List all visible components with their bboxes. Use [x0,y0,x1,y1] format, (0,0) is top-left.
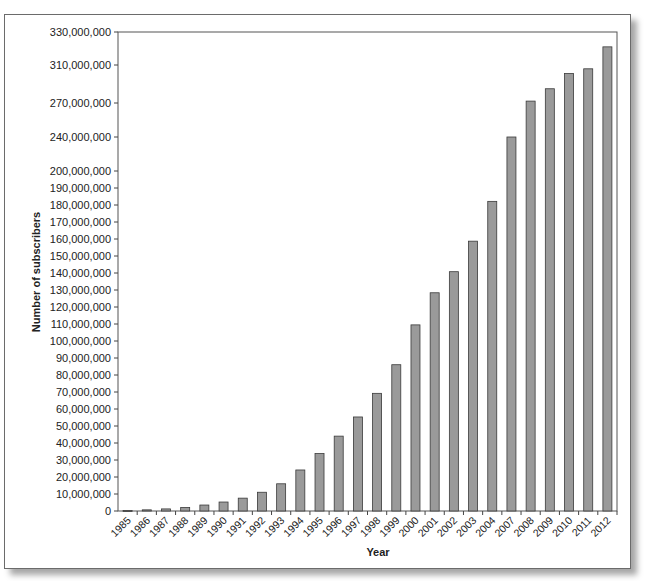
bar-1990 [219,502,228,511]
y-tick-label: 140,000,000 [50,267,111,279]
y-tick-label: 130,000,000 [50,284,111,296]
bar-2009 [545,89,554,511]
x-tick-label: 2007 [492,514,517,539]
bar-2007 [507,137,516,511]
x-tick-label: 2004 [473,514,498,539]
y-tick-label: 70,000,000 [56,386,111,398]
y-tick-label: 200,000,000 [50,165,111,177]
x-axis: 1985198619871988198919901991199219931994… [108,511,617,539]
bar-1985 [123,510,132,511]
y-tick-label: 20,000,000 [56,471,111,483]
bar-1998 [373,393,382,511]
bar-1989 [200,505,209,511]
bars [123,47,612,512]
x-tick-label: 2002 [434,514,459,539]
x-tick-label: 2009 [530,514,555,539]
x-axis-label: Year [366,546,390,558]
bar-1997 [353,417,362,511]
x-tick-label: 2011 [569,514,594,539]
x-tick-label: 1986 [127,514,152,539]
plot-border [118,32,617,511]
x-tick-label: 1992 [242,514,267,539]
x-tick-label: 1995 [300,514,325,539]
y-tick-label: 50,000,000 [56,420,111,432]
bar-1994 [296,470,305,511]
y-axis-label: Number of subscribers [30,212,42,332]
x-tick-label: 2001 [415,514,440,539]
y-tick-label: 270,000,000 [50,97,111,109]
x-tick-label: 1999 [377,514,402,539]
bar-1987 [161,509,170,511]
bar-2010 [565,74,574,511]
y-tick-label: 0 [105,505,111,517]
y-tick-label: 10,000,000 [56,488,111,500]
x-tick-label: 1998 [358,514,383,539]
y-tick-label: 40,000,000 [56,437,111,449]
x-tick-label: 2000 [396,514,421,539]
bar-1988 [181,507,190,511]
bar-chart: 010,000,00020,000,00030,000,00040,000,00… [0,0,645,581]
y-tick-label: 90,000,000 [56,352,111,364]
bar-2002 [449,272,458,511]
y-tick-label: 180,000,000 [50,199,111,211]
x-tick-label: 1993 [262,514,287,539]
bar-1996 [334,436,343,511]
y-tick-label: 190,000,000 [50,182,111,194]
bar-2012 [603,47,612,511]
x-tick-label: 1990 [204,514,229,539]
bar-2003 [469,241,478,511]
bar-1986 [142,510,151,511]
bar-1993 [277,484,286,511]
x-tick-label: 1996 [319,514,344,539]
x-tick-label: 2003 [453,514,478,539]
bar-1995 [315,454,324,511]
y-tick-label: 30,000,000 [56,454,111,466]
x-tick-label: 1997 [338,514,363,539]
bar-1999 [392,365,401,511]
y-tick-label: 60,000,000 [56,403,111,415]
x-tick-label: 2008 [511,514,536,539]
x-tick-label: 1987 [146,514,171,539]
y-tick-label: 100,000,000 [50,335,111,347]
bar-1992 [257,492,266,511]
plot-area [118,32,617,511]
bar-2000 [411,325,420,511]
x-tick-label: 2012 [588,514,613,539]
y-tick-label: 170,000,000 [50,216,111,228]
x-tick-label: 1988 [166,514,191,539]
bar-2008 [526,101,535,511]
y-tick-label: 80,000,000 [56,369,111,381]
x-tick-label: 1994 [281,514,306,539]
x-tick-label: 2010 [549,514,574,539]
bar-2004 [488,201,497,511]
bar-2011 [584,69,593,511]
y-tick-label: 110,000,000 [51,318,111,330]
bar-2001 [430,293,439,511]
y-tick-label: 160,000,000 [50,233,111,245]
y-tick-label: 330,000,000 [50,26,111,38]
x-tick-label: 1985 [108,514,133,539]
x-tick-label: 1991 [223,514,248,539]
y-axis: 010,000,00020,000,00030,000,00040,000,00… [50,26,118,517]
y-tick-label: 150,000,000 [50,250,111,262]
x-tick-label: 1989 [185,514,210,539]
y-tick-label: 240,000,000 [50,131,111,143]
bar-1991 [238,498,247,511]
y-tick-label: 120,000,000 [50,301,111,313]
y-tick-label: 310,000,000 [50,59,111,71]
